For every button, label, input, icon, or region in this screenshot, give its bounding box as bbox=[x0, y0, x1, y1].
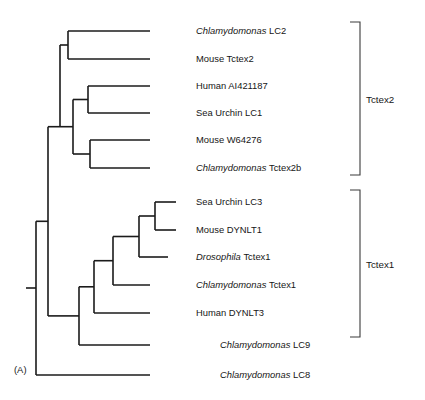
gene-name: Tctex1 bbox=[243, 251, 270, 262]
genus-name: Chlamydomonas bbox=[220, 339, 293, 350]
leaf-label-dynlt1: Mouse DYNLT1 bbox=[196, 224, 262, 235]
leaf-label-dynlt3: Human DYNLT3 bbox=[196, 307, 264, 318]
leaf-label-lc2: Chlamydomonas LC2 bbox=[196, 25, 286, 36]
leaf-label-ctctex1: Chlamydomonas Tctex1 bbox=[196, 279, 296, 290]
gene-name: Tctex2b bbox=[269, 162, 301, 173]
leaf-label-dtctex1: Drosophila Tctex1 bbox=[196, 251, 271, 262]
panel-label: (A) bbox=[14, 364, 27, 375]
clade-brackets: Tctex2Tctex1 bbox=[350, 22, 394, 337]
leaf-label-ai421187: Human AI421187 bbox=[196, 80, 268, 91]
gene-name: LC9 bbox=[293, 339, 310, 350]
leaf-label-lc1: Sea Urchin LC1 bbox=[196, 107, 262, 118]
bracket-tctex1-label: Tctex1 bbox=[366, 259, 394, 270]
bracket-tctex1 bbox=[350, 190, 360, 337]
genus-name: Chlamydomonas bbox=[196, 279, 269, 290]
genus-name: Chlamydomonas bbox=[220, 369, 293, 380]
tree-svg-canvas: Chlamydomonas LC2Mouse Tctex2Human AI421… bbox=[0, 0, 425, 400]
leaf-label-mtctex2: Mouse Tctex2 bbox=[196, 53, 254, 64]
genus-name: Drosophila bbox=[196, 251, 243, 262]
tree-branches bbox=[26, 31, 176, 375]
gene-name: LC2 bbox=[269, 25, 286, 36]
bracket-tctex2-label: Tctex2 bbox=[366, 94, 394, 105]
genus-name: Chlamydomonas bbox=[196, 162, 269, 173]
gene-name: LC8 bbox=[293, 369, 310, 380]
leaf-label-tctex2b: Chlamydomonas Tctex2b bbox=[196, 162, 301, 173]
genus-name: Chlamydomonas bbox=[196, 25, 269, 36]
bracket-tctex2 bbox=[350, 22, 360, 175]
leaf-label-w64276: Mouse W64276 bbox=[196, 134, 262, 145]
leaf-label-lc3: Sea Urchin LC3 bbox=[196, 196, 262, 207]
gene-name: Tctex1 bbox=[269, 279, 296, 290]
tree-leaf-labels: Chlamydomonas LC2Mouse Tctex2Human AI421… bbox=[196, 25, 310, 380]
leaf-label-lc8: Chlamydomonas LC8 bbox=[220, 369, 310, 380]
leaf-label-lc9: Chlamydomonas LC9 bbox=[220, 339, 310, 350]
phylogenetic-tree-figure: Chlamydomonas LC2Mouse Tctex2Human AI421… bbox=[0, 0, 425, 400]
